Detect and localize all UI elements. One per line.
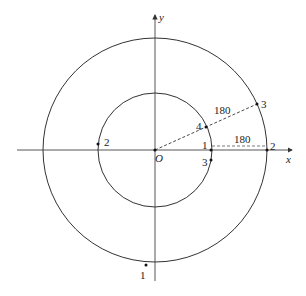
origin-label: O <box>155 152 163 164</box>
inner-point-2-label: 2 <box>104 136 110 148</box>
outer-point-2 <box>266 149 269 152</box>
x-axis-label: x <box>285 153 291 165</box>
diagram-canvas: y x O 1 2 3 4 1 2 3 180 180 <box>0 0 306 296</box>
inner-point-3-label: 3 <box>202 156 208 168</box>
outer-point-3-label: 3 <box>261 98 267 110</box>
outer-point-3 <box>256 103 259 106</box>
inner-point-4-label: 4 <box>196 120 202 132</box>
outer-point-1 <box>145 264 148 267</box>
inner-point-2 <box>97 143 100 146</box>
y-axis-label: y <box>158 11 164 23</box>
diagonal-dimension-label: 180 <box>214 104 231 116</box>
inner-point-4 <box>205 126 208 129</box>
outer-point-2-label: 2 <box>270 140 276 152</box>
inner-point-1 <box>210 149 213 152</box>
inner-point-3 <box>210 159 213 162</box>
inner-point-1-label: 1 <box>202 139 208 151</box>
horizontal-dimension-label: 180 <box>234 133 251 145</box>
outer-point-1-label: 1 <box>140 269 146 281</box>
concentric-circles-diagram: y x O 1 2 3 4 1 2 3 180 180 <box>0 0 306 296</box>
